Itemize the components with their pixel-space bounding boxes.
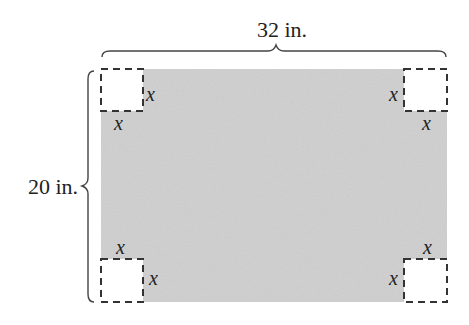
height-brace (82, 71, 94, 302)
corner-square-bottom-right (404, 259, 447, 302)
box-cutout-diagram: 32 in. 20 in. x x x x x x x x (0, 0, 469, 325)
x-label-top-right-bottom: x (421, 112, 431, 134)
x-label-bottom-right-side: x (388, 267, 398, 289)
width-brace (102, 45, 446, 57)
x-label-top-left-side: x (145, 83, 155, 105)
corner-square-top-right (404, 69, 447, 111)
corner-square-bottom-left (101, 259, 143, 302)
x-label-bottom-left-top: x (115, 236, 125, 258)
x-label-bottom-right-top: x (422, 236, 432, 258)
x-label-top-left-bottom: x (113, 112, 123, 134)
width-label: 32 in. (257, 17, 307, 42)
corner-square-top-left (101, 69, 143, 111)
x-label-top-right-side: x (388, 83, 398, 105)
height-label: 20 in. (28, 174, 78, 199)
x-label-bottom-left-side: x (148, 267, 158, 289)
